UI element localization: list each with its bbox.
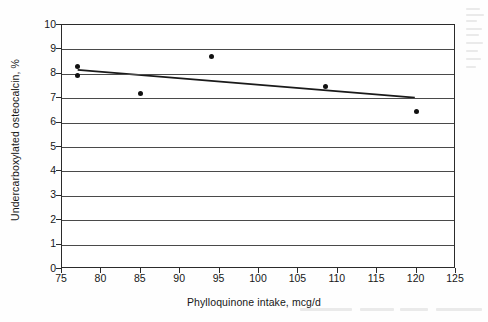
y-axis-tick-mark-6: [56, 122, 61, 123]
y-axis-tick-mark-3: [56, 195, 61, 196]
x-axis-tick-mark-110: [337, 268, 338, 273]
gridline-y-8: [62, 74, 454, 75]
scan-artifact-footer: [300, 306, 488, 318]
y-axis-tick-mark-9: [56, 48, 61, 49]
gridline-y-4: [62, 171, 454, 172]
y-axis-tick-mark-10: [56, 24, 61, 25]
x-axis-tick-mark-95: [219, 268, 220, 273]
gridline-y-6: [62, 123, 454, 124]
y-axis-tick-label-8: 8: [28, 67, 56, 78]
x-axis-tick-mark-100: [258, 268, 259, 273]
x-axis-tick-label-125: 125: [435, 273, 475, 284]
y-axis-tick-label-10: 10: [28, 19, 56, 30]
x-axis-tick-mark-85: [140, 268, 141, 273]
y-axis-tick-label-4: 4: [28, 165, 56, 176]
y-axis-tick-mark-2: [56, 219, 61, 220]
gridline-y-3: [62, 196, 454, 197]
y-axis-tick-label-1: 1: [28, 238, 56, 249]
y-axis-tick-label-5: 5: [28, 141, 56, 152]
x-axis-tick-label-105: 105: [277, 273, 317, 284]
x-axis-tick-label-95: 95: [199, 273, 239, 284]
gridline-y-5: [62, 147, 454, 148]
y-axis-tick-mark-5: [56, 146, 61, 147]
x-axis-tick-label-80: 80: [80, 273, 120, 284]
x-axis-tick-mark-120: [416, 268, 417, 273]
scan-artifact-right-margin: [466, 6, 488, 76]
y-axis-tick-label-2: 2: [28, 214, 56, 225]
plot-area: [61, 24, 455, 268]
data-point: [75, 73, 80, 78]
gridline-y-2: [62, 220, 454, 221]
gridline-y-1: [62, 245, 454, 246]
x-axis-tick-mark-125: [455, 268, 456, 273]
y-axis-tick-mark-1: [56, 244, 61, 245]
y-axis-tick-label-0: 0: [28, 263, 56, 274]
x-axis-tick-mark-75: [61, 268, 62, 273]
trend-line: [62, 25, 454, 267]
figure-scatter-plot: Undercarboxylated osteocalcin, % Phylloq…: [0, 0, 488, 322]
y-axis-tick-label-9: 9: [28, 43, 56, 54]
y-axis-tick-label-6: 6: [28, 116, 56, 127]
gridline-y-7: [62, 98, 454, 99]
x-axis-tick-mark-105: [297, 268, 298, 273]
x-axis-tick-label-115: 115: [356, 273, 396, 284]
y-axis-tick-mark-7: [56, 97, 61, 98]
y-axis-title-text: Undercarboxylated osteocalcin, %: [9, 59, 21, 221]
x-axis-tick-label-110: 110: [317, 273, 357, 284]
x-axis-tick-mark-115: [376, 268, 377, 273]
x-axis-tick-label-120: 120: [396, 273, 436, 284]
y-axis-tick-mark-4: [56, 170, 61, 171]
y-axis-tick-label-3: 3: [28, 189, 56, 200]
x-axis-tick-label-75: 75: [41, 273, 81, 284]
y-axis-title: Undercarboxylated osteocalcin, %: [2, 0, 28, 280]
x-axis-tick-label-90: 90: [159, 273, 199, 284]
x-axis-tick-label-85: 85: [120, 273, 160, 284]
x-axis-tick-mark-80: [100, 268, 101, 273]
x-axis-tick-label-100: 100: [238, 273, 278, 284]
gridline-y-9: [62, 49, 454, 50]
y-axis-tick-label-7: 7: [28, 92, 56, 103]
y-axis-tick-mark-8: [56, 73, 61, 74]
x-axis-tick-mark-90: [179, 268, 180, 273]
